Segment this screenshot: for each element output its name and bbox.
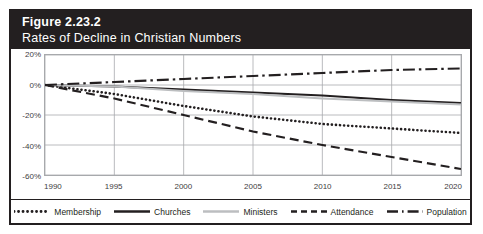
x-axis-tick-label: 2010 [314,182,332,191]
legend-label: Ministers [243,207,277,217]
x-axis-tick-label: 2020 [444,182,462,191]
legend-item-churches: Churches [114,207,190,217]
chart-area: 20%0%-20%-40%-60% 1990199520002005201020… [11,49,470,225]
y-axis-tick-label: 0% [29,80,41,89]
chart-lines [45,55,461,175]
y-axis-tick-label: -40% [22,141,41,150]
x-axis-labels: 1990199520002005201020152020 [44,181,462,195]
legend-label: Population [427,207,467,217]
x-axis-tick-label: 1990 [44,182,62,191]
y-axis-tick-label: -60% [22,172,41,181]
x-axis-tick-label: 2005 [244,182,262,191]
legend-swatch-membership [14,207,50,216]
legend-swatch-attendance [291,207,327,216]
figure-title: Rates of Decline in Christian Numbers [22,30,470,46]
legend-swatch-population [387,207,423,216]
figure-number: Figure 2.23.2 [22,15,470,30]
y-axis-tick-label: 20% [25,50,41,59]
x-axis-tick-label: 2000 [174,182,192,191]
figure-panel: Figure 2.23.2 Rates of Decline in Christ… [9,9,472,225]
plot-region [44,54,462,176]
chart-legend: MembershipChurchesMinistersAttendancePop… [11,199,470,221]
y-axis-tick-label: -20% [22,111,41,120]
x-axis-tick-label: 2015 [383,182,401,191]
legend-item-ministers: Ministers [203,207,277,217]
legend-item-membership: Membership [14,207,101,217]
legend-item-population: Population [387,207,467,217]
legend-label: Attendance [331,207,374,217]
y-axis-labels: 20%0%-20%-40%-60% [11,49,44,181]
legend-swatch-churches [114,207,150,216]
legend-swatch-ministers [203,207,239,216]
figure-header: Figure 2.23.2 Rates of Decline in Christ… [11,11,470,49]
legend-label: Churches [154,207,190,217]
x-axis-tick-label: 1995 [105,182,123,191]
legend-item-attendance: Attendance [291,207,374,217]
legend-label: Membership [54,207,101,217]
